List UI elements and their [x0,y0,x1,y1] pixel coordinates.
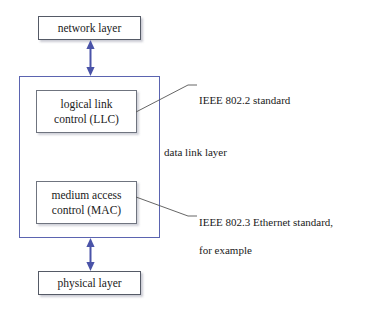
mac-label-line1: medium access [52,188,122,203]
ieee-802-2-text: IEEE 802.2 standard [199,94,290,106]
mac-label-line2: control (MAC) [52,203,122,218]
data-link-layer-label: data link layer [164,146,227,158]
mac-label-group: medium access control (MAC) [52,188,122,218]
physical-layer-label: physical layer [57,277,121,289]
llc-label-group: logical link control (LLC) [54,97,119,127]
llc-label-line2: control (LLC) [54,112,119,127]
diagram-canvas: network layer logical link control (LLC)… [0,0,365,309]
ieee-802-2-callout-label: IEEE 802.2 standard [199,79,290,107]
network-to-datalink-arrow [86,40,94,76]
llc-label-line1: logical link [54,97,119,112]
ieee-802-3-text-line2: for example [199,243,333,257]
physical-layer-box: physical layer [38,271,141,295]
network-layer-box: network layer [38,16,141,40]
datalink-to-physical-arrow [86,238,94,271]
network-layer-label: network layer [58,22,122,34]
logical-link-control-box: logical link control (LLC) [36,90,137,133]
ieee-802-3-text-line1: IEEE 802.3 Ethernet standard, [199,215,333,229]
medium-access-control-box: medium access control (MAC) [36,181,137,224]
ieee-802-3-callout-label: IEEE 802.3 Ethernet standard, for exampl… [199,201,333,271]
